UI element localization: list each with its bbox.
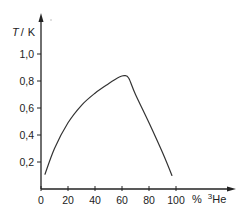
- x-tick-label: 60: [116, 194, 128, 206]
- y-tick-label: 0,6: [19, 102, 34, 114]
- y-tick-label: 0,8: [19, 75, 34, 87]
- data-curve: [45, 76, 172, 176]
- y-tick-label: 0,4: [19, 129, 34, 141]
- x-axis-label: %3He: [192, 192, 226, 205]
- x-tick-label: 40: [89, 194, 101, 206]
- x-tick-label: 80: [143, 194, 155, 206]
- y-tick-label: 0,2: [19, 156, 34, 168]
- x-tick-label: 0: [38, 194, 44, 206]
- x-axis-arrow-icon: [227, 187, 236, 192]
- stray-dot: [50, 19, 51, 20]
- phase-diagram-chart: 0,20,40,60,81,0 020406080100 T/K %3He: [0, 0, 251, 219]
- y-tick-label: 1,0: [19, 48, 34, 60]
- x-tick-label: 20: [62, 194, 74, 206]
- y-axis-arrow-icon: [39, 13, 44, 22]
- y-axis-label: T/K: [12, 26, 36, 38]
- x-tick-label: 100: [167, 194, 185, 206]
- y-ticks: 0,20,40,60,81,0: [19, 48, 41, 168]
